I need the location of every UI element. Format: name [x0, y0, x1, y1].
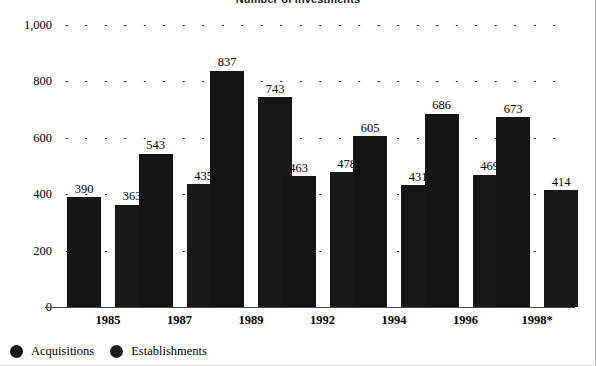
legend-item-label: Acquisitions — [31, 344, 94, 359]
x-axis-tick-label: 1996 — [453, 313, 478, 328]
bar-value-label: 605 — [361, 122, 380, 135]
gridline: 800 — [57, 81, 572, 82]
y-axis-tick-label: 1,000 — [24, 18, 52, 33]
bar[interactable]: 414 — [544, 190, 578, 307]
bar-value-label: 837 — [218, 56, 237, 69]
legend-swatch-icon — [10, 345, 23, 358]
y-axis-tick-label: 400 — [33, 187, 52, 202]
legend-item-establishments[interactable]: Establishments — [110, 344, 207, 359]
gridline: 600 — [57, 138, 572, 139]
x-axis-line — [45, 307, 575, 308]
gridline: 1,000 — [57, 25, 572, 26]
bar-value-label: 743 — [266, 83, 285, 96]
bar[interactable]: 673 — [496, 117, 530, 307]
bar-value-label: 673 — [504, 103, 523, 116]
bar[interactable]: 605 — [353, 136, 387, 307]
bar-value-label: 463 — [289, 162, 308, 175]
bar-value-label: 390 — [75, 183, 94, 196]
chart-legend: Acquisitions Establishments — [10, 344, 207, 359]
y-axis-tick-label: 800 — [33, 74, 52, 89]
x-axis-tick-label: 1994 — [382, 313, 407, 328]
bar-value-label: 414 — [552, 176, 571, 189]
bar[interactable]: 686 — [425, 114, 459, 307]
bar[interactable]: 390 — [67, 197, 101, 307]
legend-swatch-icon — [110, 345, 123, 358]
y-axis-tick-label: 200 — [33, 243, 52, 258]
x-axis-tick-label: 1987 — [167, 313, 192, 328]
legend-item-label: Establishments — [131, 344, 207, 359]
x-axis-tick-label: 1989 — [239, 313, 264, 328]
page-title: Number of Investments — [0, 0, 596, 5]
chart-figure: Number of Investments 02004006008001,000… — [0, 0, 596, 366]
bar[interactable]: 837 — [210, 71, 244, 307]
plot-area: 02004006008001,0003903635434358377434634… — [57, 25, 572, 307]
bar-value-label: 543 — [146, 139, 165, 152]
x-axis-tick-label: 1998* — [521, 313, 552, 328]
bar[interactable]: 543 — [139, 154, 173, 307]
x-axis-tick-label: 1985 — [96, 313, 121, 328]
bar[interactable]: 463 — [282, 176, 316, 307]
y-axis-tick-label: 600 — [33, 130, 52, 145]
legend-item-acquisitions[interactable]: Acquisitions — [10, 344, 94, 359]
x-axis-tick-label: 1992 — [310, 313, 335, 328]
bar-value-label: 686 — [432, 99, 451, 112]
